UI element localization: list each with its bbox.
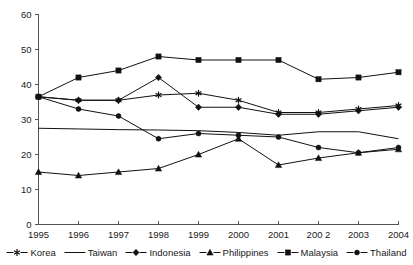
data-point-indonesia <box>75 97 81 104</box>
legend-swatch-thailand <box>346 247 368 258</box>
series-line-korea <box>39 93 399 112</box>
x-tick-label: 1995 <box>28 229 49 239</box>
data-point-indonesia <box>115 97 121 104</box>
data-point-malaysia <box>356 75 361 80</box>
legend-label-thailand: Thailand <box>370 247 406 258</box>
legend-marker-thailand <box>355 250 360 255</box>
x-tick-label: 1996 <box>68 229 89 239</box>
data-point-malaysia <box>76 75 81 80</box>
data-point-thailand <box>76 107 81 112</box>
data-point-thailand <box>396 145 401 150</box>
x-tick-label: 1997 <box>108 229 129 239</box>
legend-item-thailand[interactable]: Thailand <box>346 247 406 258</box>
y-tick-label: 10 <box>21 184 32 195</box>
legend-item-philippines[interactable]: Philippines <box>199 247 269 258</box>
y-tick-group <box>35 15 39 225</box>
data-point-thailand <box>276 135 281 140</box>
y-tick-label: 20 <box>21 149 32 160</box>
legend-label-korea: Korea <box>30 247 55 258</box>
data-point-malaysia <box>196 57 201 62</box>
series-taiwan <box>39 128 399 139</box>
data-point-indonesia <box>235 104 241 111</box>
data-point-indonesia <box>155 74 161 81</box>
legend-item-indonesia[interactable]: Indonesia <box>125 247 190 258</box>
data-point-indonesia <box>395 104 401 111</box>
data-point-malaysia <box>116 68 121 73</box>
series-malaysia <box>36 54 401 99</box>
legend-swatch-indonesia <box>125 247 147 258</box>
x-tick-label: 2000 <box>228 229 249 239</box>
series-line-indonesia <box>39 78 399 115</box>
series-line-thailand <box>39 97 399 153</box>
x-tick-label: 200 2 <box>307 229 331 239</box>
x-axis: 1995199619971998199920002001200 22003200… <box>28 221 409 239</box>
legend-label-malaysia: Malaysia <box>301 247 339 258</box>
legend-item-malaysia[interactable]: Malaysia <box>277 247 339 258</box>
legend-swatch-philippines <box>199 247 221 258</box>
line-chart: 0102030405060 19951996199719981999200020… <box>0 0 413 265</box>
legend-swatch-korea <box>6 247 28 258</box>
legend-item-taiwan[interactable]: Taiwan <box>64 247 118 258</box>
data-point-thailand <box>196 131 201 136</box>
series-line-malaysia <box>39 57 399 97</box>
legend-swatch-malaysia <box>277 247 299 258</box>
data-point-thailand <box>36 94 41 99</box>
chart-plot-area: 0102030405060 19951996199719981999200020… <box>0 0 413 238</box>
y-axis: 0102030405060 <box>21 9 39 230</box>
x-tick-label: 2001 <box>268 229 289 239</box>
data-point-thailand <box>356 150 361 155</box>
y-tick-label: 40 <box>21 79 32 90</box>
x-tick-label-group: 1995199619971998199920002001200 22003200… <box>28 229 409 239</box>
legend-marker-malaysia <box>285 249 290 254</box>
data-point-philippines <box>195 151 201 157</box>
series-line-taiwan <box>39 128 399 139</box>
legend-label-taiwan: Taiwan <box>88 247 118 258</box>
y-tick-label-group: 0102030405060 <box>21 9 32 230</box>
x-tick-label: 1998 <box>148 229 169 239</box>
data-point-malaysia <box>316 77 321 82</box>
data-point-malaysia <box>276 57 281 62</box>
legend-marker-korea <box>15 249 21 256</box>
y-tick-label: 30 <box>21 114 32 125</box>
data-point-indonesia <box>195 104 201 111</box>
legend-item-korea[interactable]: Korea <box>6 247 55 258</box>
data-point-thailand <box>316 145 321 150</box>
legend-marker-philippines <box>206 249 212 255</box>
series-philippines <box>35 136 401 179</box>
y-tick-label: 50 <box>21 44 32 55</box>
data-point-thailand <box>116 114 121 119</box>
x-tick-label: 2003 <box>348 229 369 239</box>
chart-legend: KoreaTaiwanIndonesiaPhilippinesMalaysiaT… <box>0 239 413 265</box>
legend-label-indonesia: Indonesia <box>149 247 190 258</box>
data-point-thailand <box>236 133 241 138</box>
series-group <box>35 54 401 178</box>
legend-label-philippines: Philippines <box>223 247 269 258</box>
data-point-malaysia <box>396 70 401 75</box>
data-point-malaysia <box>236 57 241 62</box>
x-tick-label: 1999 <box>188 229 209 239</box>
x-tick-group <box>39 221 399 225</box>
data-point-thailand <box>156 136 161 141</box>
y-tick-label: 60 <box>21 9 32 20</box>
data-point-malaysia <box>156 54 161 59</box>
x-tick-label: 2004 <box>388 229 409 239</box>
legend-swatch-taiwan <box>64 247 86 258</box>
legend-marker-indonesia <box>133 249 139 256</box>
series-line-philippines <box>39 139 399 176</box>
